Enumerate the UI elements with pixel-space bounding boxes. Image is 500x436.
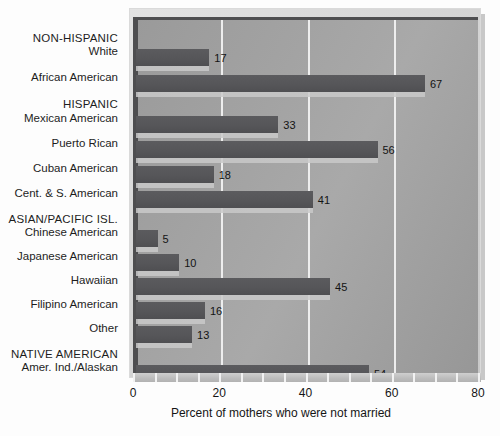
x-axis-tick-mark <box>306 373 308 382</box>
y-axis-category-label: White <box>89 45 126 58</box>
x-axis-tick-label-20: 20 <box>213 386 226 400</box>
bar-value-label: 67 <box>430 79 442 90</box>
x-axis-title: Percent of mothers who were not married <box>0 406 500 420</box>
bar-base-shadow <box>136 319 205 324</box>
x-axis-tick-mark <box>370 373 372 382</box>
bar-base-shadow <box>136 295 330 300</box>
x-axis-tick-mark <box>219 373 221 382</box>
bar[interactable] <box>136 166 214 183</box>
y-axis-group-label: NON-HISPANIC <box>33 32 126 45</box>
bar-base-shadow <box>136 92 425 97</box>
bar-row[interactable]: 33 <box>136 116 478 133</box>
y-axis-category-label: Mexican American <box>24 112 126 125</box>
bar-base-shadow <box>136 133 278 138</box>
bar[interactable] <box>136 191 313 208</box>
x-axis-tick-mark <box>456 373 458 382</box>
bar-base-shadow <box>136 343 192 348</box>
bar-value-label: 10 <box>184 258 196 269</box>
x-axis-tick-label-40: 40 <box>299 386 312 400</box>
y-axis-group-label: ASIAN/PACIFIC ISL. <box>9 213 126 226</box>
bar[interactable] <box>136 254 179 271</box>
bar-base-shadow <box>136 158 378 163</box>
y-axis-category-label: Amer. Ind./Alaskan <box>21 361 126 374</box>
y-axis-group-label: NATIVE AMERICAN <box>11 348 126 361</box>
bar-row[interactable]: 13 <box>136 326 478 343</box>
bar[interactable] <box>136 141 378 158</box>
bar-row[interactable]: 67 <box>136 75 478 92</box>
y-axis-labels: NON-HISPANICWhiteAfrican AmericanHISPANI… <box>0 17 126 373</box>
x-axis-tick-mark <box>262 373 264 382</box>
bar-base-shadow <box>136 271 179 276</box>
x-axis-tick-mark <box>198 373 200 382</box>
bar-row[interactable]: 56 <box>136 141 478 158</box>
bar-row[interactable]: 54 <box>136 365 478 373</box>
x-axis-tick-mark <box>478 373 480 382</box>
bar-value-label: 17 <box>214 53 226 64</box>
bar-value-label: 45 <box>335 282 347 293</box>
y-axis-category-label: Hawaiian <box>71 274 126 287</box>
x-axis-tick-mark <box>241 373 243 382</box>
bar[interactable] <box>136 49 209 66</box>
y-axis-category-label: Puerto Rican <box>52 137 126 150</box>
plot-area: 17673356184151045161354 <box>133 17 478 373</box>
y-axis-category-label: Japanese American <box>17 250 126 263</box>
x-axis-tick-mark <box>392 373 394 382</box>
x-axis-tick-mark <box>327 373 329 382</box>
bar-row[interactable]: 45 <box>136 278 478 295</box>
bar-row[interactable]: 18 <box>136 166 478 183</box>
x-axis-tick-mark <box>435 373 437 382</box>
bar-value-label: 5 <box>163 234 169 245</box>
bar-row[interactable]: 5 <box>136 230 478 247</box>
bar-row[interactable]: 17 <box>136 49 478 66</box>
bar[interactable] <box>136 326 192 343</box>
x-axis-tick-label-60: 60 <box>385 386 398 400</box>
x-axis-tick-label-0: 0 <box>130 386 137 400</box>
bar-value-label: 13 <box>197 330 209 341</box>
y-axis-category-label: Chinese American <box>25 226 126 239</box>
bar[interactable] <box>136 278 330 295</box>
bar-value-label: 56 <box>383 145 395 156</box>
bar-base-shadow <box>136 183 214 188</box>
x-axis-tick-mark <box>284 373 286 382</box>
bar-base-shadow <box>136 208 313 213</box>
bar[interactable] <box>136 302 205 319</box>
y-axis-group-label: HISPANIC <box>63 98 126 111</box>
x-axis-tick-mark <box>155 373 157 382</box>
x-axis-band <box>133 373 481 382</box>
y-axis-category-label: Cuban American <box>33 162 126 175</box>
bar-base-shadow <box>136 247 158 252</box>
x-axis-tick-label-80: 80 <box>471 386 484 400</box>
x-axis-title-text: Percent of mothers who were not married <box>171 406 391 420</box>
x-axis-tick-mark <box>133 373 135 382</box>
y-axis-category-label: Cent. & S. American <box>14 187 126 200</box>
bar-value-label: 41 <box>318 195 330 206</box>
chart-figure: 17673356184151045161354 NON-HISPANICWhit… <box>0 0 500 436</box>
bar[interactable] <box>136 75 425 92</box>
bar-row[interactable]: 16 <box>136 302 478 319</box>
bar-row[interactable]: 10 <box>136 254 478 271</box>
y-axis-category-label: African American <box>31 71 126 84</box>
bar-value-label: 18 <box>219 170 231 181</box>
bar-base-shadow <box>136 66 209 71</box>
bar[interactable] <box>136 230 158 247</box>
x-axis-tick-mark <box>349 373 351 382</box>
x-axis-tick-mark <box>176 373 178 382</box>
bar-row[interactable]: 41 <box>136 191 478 208</box>
x-axis-tick-mark <box>413 373 415 382</box>
bar-value-label: 33 <box>283 120 295 131</box>
y-axis-category-label: Other <box>89 322 126 335</box>
bar[interactable] <box>136 365 369 373</box>
y-axis-category-label: Filipino American <box>30 298 126 311</box>
bar[interactable] <box>136 116 278 133</box>
bar-value-label: 16 <box>210 306 222 317</box>
